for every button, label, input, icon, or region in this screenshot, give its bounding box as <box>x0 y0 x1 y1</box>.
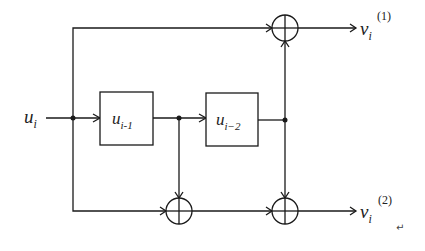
xor-bottom-left-icon <box>166 198 192 224</box>
xor-bottom-right-icon <box>272 198 298 224</box>
reg2-up-wire <box>281 41 289 120</box>
convolutional-encoder-diagram: ui-1 ui−2 <box>0 0 425 251</box>
xor-top-icon <box>272 15 298 41</box>
input-label: ui <box>24 106 37 131</box>
output-1-wire <box>298 24 356 32</box>
output-1-superscript: (1) <box>377 9 391 23</box>
output-2-superscript: (2) <box>378 193 392 207</box>
reg1-tap-wire <box>175 118 183 198</box>
xor-chain-wire <box>192 207 272 215</box>
paragraph-return-mark: ↵ <box>396 222 404 233</box>
output-1-label: vi <box>360 18 372 43</box>
output-2-wire <box>298 207 356 215</box>
reg2-down-wire <box>281 120 289 198</box>
output-2-label: vi <box>360 201 372 226</box>
